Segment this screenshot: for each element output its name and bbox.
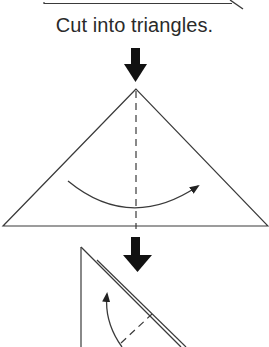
curved-up-arrow [107,294,122,347]
diagonal-fold-line [121,314,152,343]
origami-diagram: Cut into triangles. [0,0,269,347]
curved-fold-arrow [68,181,198,208]
previous-step-paper [44,0,243,9]
step-caption: Cut into triangles. [0,13,269,37]
diagram-canvas [0,0,269,347]
triangle-step [3,89,268,229]
down-arrow-icon [123,237,152,272]
down-arrow-icon [124,48,147,82]
